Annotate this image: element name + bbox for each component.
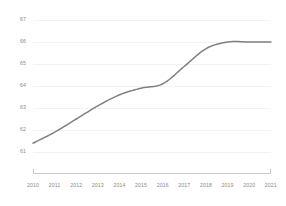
x-axis-left-cap [33,169,34,174]
series-line [33,42,271,144]
x-axis-line [33,173,271,174]
x-axis-tick-label: 2021 [256,183,286,188]
series-line-layer [0,0,286,206]
x-axis-labels: 2010 2011 2012 2013 2014 2015 2016 2017 … [0,183,286,193]
x-axis-right-cap [270,169,271,174]
line-chart: 67 66 65 64 63 62 61 2010 2011 2012 2013… [0,0,286,206]
